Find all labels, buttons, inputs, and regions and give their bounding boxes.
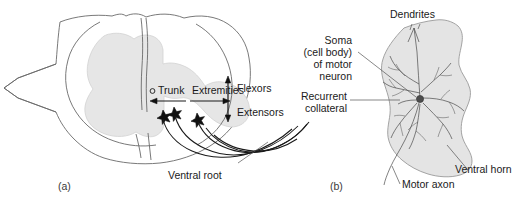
motor-axon-fiber-4 xyxy=(206,122,309,152)
label-soma-line-4: neuron xyxy=(319,70,352,82)
motor-axon-leader xyxy=(392,166,400,184)
anatomy-figure: Trunk Extremities Flexors Ext xyxy=(0,0,515,207)
label-recurrent-line-1: Recurrent xyxy=(301,90,347,102)
label-extensors: Extensors xyxy=(237,106,284,118)
panel-label-a: (a) xyxy=(58,180,71,192)
label-recurrent-line-2: collateral xyxy=(305,102,347,114)
figure-canvas: Trunk Extremities Flexors Ext xyxy=(0,0,515,207)
label-soma-line-2: (cell body) xyxy=(304,46,352,58)
label-motor-axon: Motor axon xyxy=(402,178,455,190)
label-ventral-horn: Ventral horn xyxy=(455,163,512,175)
motor-neuron-soma-2 xyxy=(168,107,182,121)
label-dendrites: Dendrites xyxy=(390,8,435,20)
ventral-fissure-wedge xyxy=(4,64,56,112)
label-ventral-root: Ventral root xyxy=(168,169,222,181)
panel-label-b: (b) xyxy=(330,180,343,192)
label-soma-line-1: Soma xyxy=(325,34,353,46)
trunk-direction-arrow xyxy=(150,98,186,104)
label-soma-line-3: of motor xyxy=(313,58,352,70)
soma-cell-body xyxy=(416,95,423,102)
label-flexors: Flexors xyxy=(237,82,271,94)
panel-a-spinal-cord: Trunk Extremities Flexors Ext xyxy=(4,14,309,192)
motor-neuron-soma-3 xyxy=(191,113,205,127)
label-trunk: Trunk xyxy=(158,84,185,96)
panel-b-motor-neuron: Dendrites Soma (cell body) of motor neur… xyxy=(301,8,512,192)
